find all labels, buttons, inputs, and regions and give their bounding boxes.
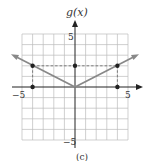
right-line-arrow-icon	[131, 54, 139, 60]
graph-figure: g(x) 5 −5 −5 5 (c)	[0, 0, 147, 161]
x-axis-arrow-icon	[136, 84, 143, 90]
point-neg4-0	[30, 85, 34, 89]
y-tick-top: 5	[68, 32, 74, 42]
caption: (c)	[76, 152, 88, 161]
x-tick-right: 5	[125, 90, 131, 100]
x-tick-left: −5	[12, 90, 26, 100]
left-line-arrow-icon	[11, 54, 19, 60]
y-axis-label: g(x)	[66, 6, 88, 19]
point-4-0	[115, 85, 119, 89]
point-neg4-2	[30, 64, 34, 68]
point-0-2	[73, 64, 77, 68]
y-axis-arrow-icon	[72, 20, 78, 27]
point-4-2	[115, 64, 119, 68]
y-tick-bottom: −5	[63, 137, 77, 147]
